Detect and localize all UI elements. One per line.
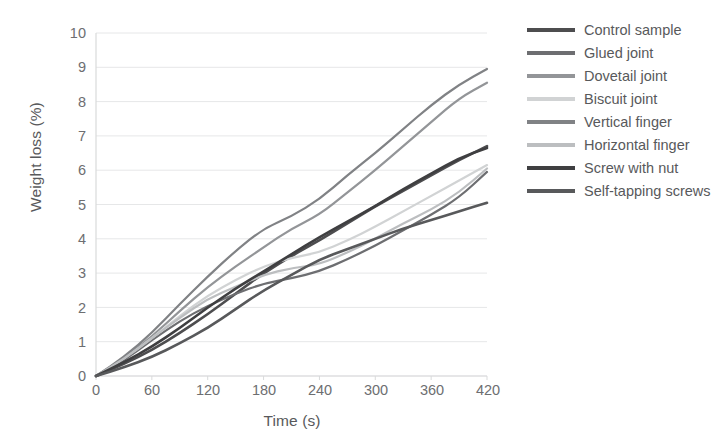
legend-line-swatch-icon bbox=[527, 97, 575, 101]
gridlines bbox=[96, 33, 487, 376]
legend-label: Self-tapping screws bbox=[584, 181, 723, 202]
legend-label: Dovetail joint bbox=[584, 66, 723, 87]
legend-line-swatch-icon bbox=[527, 51, 575, 55]
legend-label: Glued joint bbox=[584, 43, 723, 64]
legend-line-swatch-icon bbox=[527, 166, 575, 170]
legend-item[interactable]: Horizontal finger bbox=[527, 135, 723, 156]
legend-line-swatch-icon bbox=[527, 120, 575, 124]
legend-line-swatch-icon bbox=[527, 143, 575, 147]
legend-item[interactable]: Dovetail joint bbox=[527, 66, 723, 87]
axis-lines bbox=[96, 33, 487, 380]
legend-label: Control sample bbox=[584, 20, 723, 41]
legend-item[interactable]: Vertical finger bbox=[527, 112, 723, 133]
legend-line-swatch-icon bbox=[527, 74, 575, 78]
legend-item[interactable]: Screw with nut bbox=[527, 158, 723, 179]
legend: Control sample Glued joint Dovetail join… bbox=[527, 20, 723, 204]
legend-item[interactable]: Glued joint bbox=[527, 43, 723, 64]
legend-line-swatch-icon bbox=[527, 28, 575, 32]
legend-label: Vertical finger bbox=[584, 112, 723, 133]
legend-label: Screw with nut bbox=[584, 158, 723, 179]
legend-line-swatch-icon bbox=[527, 189, 575, 193]
legend-item[interactable]: Biscuit joint bbox=[527, 89, 723, 110]
legend-item[interactable]: Self-tapping screws bbox=[527, 181, 723, 202]
legend-item[interactable]: Control sample bbox=[527, 20, 723, 41]
line-chart: Weight loss (%) Time (s) 10 9 8 7 6 5 4 … bbox=[0, 0, 725, 448]
series-line bbox=[96, 69, 487, 376]
legend-label: Biscuit joint bbox=[584, 89, 723, 110]
legend-label: Horizontal finger bbox=[584, 135, 723, 156]
series-lines bbox=[96, 69, 487, 376]
series-line bbox=[96, 83, 487, 376]
